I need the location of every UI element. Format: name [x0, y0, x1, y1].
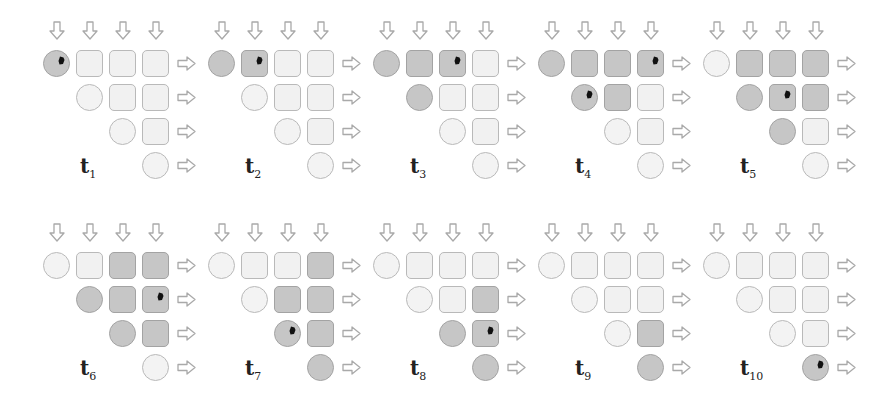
diagonal-node-circle — [736, 84, 763, 111]
timestep-label: t7 — [245, 356, 261, 383]
diagonal-node-circle — [274, 118, 301, 145]
diagonal-node-circle — [76, 286, 103, 313]
down-arrow-icon — [379, 223, 395, 246]
data-marker-icon — [289, 326, 296, 335]
right-arrow-icon — [837, 56, 856, 75]
down-arrow-icon — [643, 223, 659, 246]
right-arrow-icon — [837, 158, 856, 177]
down-arrow-icon — [280, 223, 296, 246]
down-arrow-icon — [379, 21, 395, 44]
right-arrow-icon — [342, 258, 361, 277]
processing-element — [307, 252, 334, 279]
timestep-label-t: t — [575, 356, 584, 380]
processing-element — [769, 286, 796, 313]
right-arrow-icon — [342, 124, 361, 143]
diagonal-node-circle — [703, 50, 730, 77]
processing-element — [439, 50, 466, 77]
timestep-label: t5 — [740, 154, 756, 181]
down-arrow-icon — [313, 223, 329, 246]
timestep-label: t8 — [410, 356, 426, 383]
processing-element — [802, 118, 829, 145]
down-arrow-icon — [82, 223, 98, 246]
down-arrow-icon — [478, 223, 494, 246]
timestep-label-t: t — [740, 356, 749, 380]
processing-element — [142, 286, 169, 313]
timestep-label-index: 8 — [419, 370, 426, 383]
processing-element — [439, 84, 466, 111]
down-arrow-icon — [247, 223, 263, 246]
processing-element — [142, 320, 169, 347]
timestep-label: t10 — [740, 356, 763, 383]
right-arrow-icon — [342, 90, 361, 109]
down-arrow-icon — [247, 21, 263, 44]
right-arrow-icon — [672, 292, 691, 311]
diagonal-node-circle — [208, 50, 235, 77]
down-arrow-icon — [445, 21, 461, 44]
right-arrow-icon — [177, 360, 196, 379]
diagonal-node-circle — [637, 152, 664, 179]
right-arrow-icon — [177, 90, 196, 109]
diagonal-node-circle — [472, 152, 499, 179]
timestep-label: t9 — [575, 356, 591, 383]
down-arrow-icon — [49, 223, 65, 246]
processing-element — [439, 286, 466, 313]
right-arrow-icon — [837, 258, 856, 277]
down-arrow-icon — [412, 21, 428, 44]
down-arrow-icon — [577, 21, 593, 44]
processing-element — [472, 84, 499, 111]
processing-element — [76, 252, 103, 279]
timestep-label: t4 — [575, 154, 591, 181]
processing-element — [274, 50, 301, 77]
right-arrow-icon — [672, 56, 691, 75]
right-arrow-icon — [837, 326, 856, 345]
processing-element — [604, 252, 631, 279]
diagonal-node-circle — [208, 252, 235, 279]
diagonal-node-circle — [703, 252, 730, 279]
data-marker-icon — [487, 326, 494, 335]
data-marker-icon — [454, 56, 461, 65]
timestep-label-t: t — [410, 356, 419, 380]
diagonal-node-circle — [637, 354, 664, 381]
timestep-label-t: t — [80, 356, 89, 380]
processing-element — [637, 252, 664, 279]
timestep-label-t: t — [245, 356, 254, 380]
diagonal-node-circle — [802, 354, 829, 381]
timestep-panel-10 — [0, 0, 165, 190]
processing-element — [637, 50, 664, 77]
diagonal-node-circle — [241, 286, 268, 313]
right-arrow-icon — [507, 56, 526, 75]
processing-element — [439, 252, 466, 279]
processing-element — [109, 286, 136, 313]
processing-element — [802, 50, 829, 77]
diagonal-node-circle — [802, 152, 829, 179]
down-arrow-icon — [709, 21, 725, 44]
down-arrow-icon — [808, 223, 824, 246]
right-arrow-icon — [672, 360, 691, 379]
down-arrow-icon — [445, 223, 461, 246]
right-arrow-icon — [342, 56, 361, 75]
diagonal-node-circle — [439, 118, 466, 145]
diagonal-node-circle — [307, 152, 334, 179]
diagonal-node-circle — [472, 354, 499, 381]
timestep-label-t: t — [575, 154, 584, 178]
down-arrow-icon — [313, 21, 329, 44]
processing-element — [307, 286, 334, 313]
data-marker-icon — [157, 292, 164, 301]
down-arrow-icon — [742, 21, 758, 44]
right-arrow-icon — [507, 292, 526, 311]
down-arrow-icon — [214, 223, 230, 246]
timestep-label: t6 — [80, 356, 96, 383]
processing-element — [307, 84, 334, 111]
processing-element — [307, 320, 334, 347]
timestep-label-index: 5 — [749, 168, 756, 181]
processing-element — [571, 252, 598, 279]
right-arrow-icon — [837, 360, 856, 379]
processing-element — [472, 50, 499, 77]
diagonal-node-circle — [538, 50, 565, 77]
diagonal-node-circle — [769, 320, 796, 347]
diagonal-node-circle — [736, 286, 763, 313]
diagonal-node-circle — [538, 252, 565, 279]
down-arrow-icon — [115, 223, 131, 246]
diagonal-node-circle — [571, 286, 598, 313]
processing-element — [604, 84, 631, 111]
